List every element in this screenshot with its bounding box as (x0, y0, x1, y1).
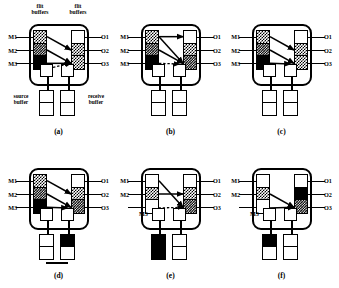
left-flit-cell-1 (146, 175, 158, 188)
source-buffer-cell-1 (263, 91, 276, 103)
panel-a: flitbuffersflitbuffersM1M2M3O1O2O3source… (2, 2, 115, 146)
buffer-base-link (46, 262, 68, 264)
receive-buffer-cell-2 (284, 247, 297, 259)
output-port-label-o3: O3 (324, 204, 338, 211)
stem-source (270, 221, 272, 234)
right-flit-cell-2 (72, 188, 84, 201)
source-buffer-cell-2 (152, 103, 165, 115)
source-buffer-cell-1 (152, 91, 165, 103)
source-buffer-cell-1 (263, 235, 276, 247)
output-port-label-o2: O2 (324, 191, 338, 198)
panel-caption-c: (c) (225, 127, 338, 136)
right-flit-cell-2 (184, 44, 196, 57)
panel-caption-d: (d) (2, 271, 115, 280)
left-flit-cell-1 (146, 31, 158, 44)
source-buffer-label: sourcebuffer (4, 94, 38, 105)
panel-caption-b: (b) (114, 127, 227, 136)
output-port-label-o3: O3 (101, 204, 115, 211)
source-buffer-cell-1 (40, 91, 53, 103)
output-port-label-o3: O3 (213, 204, 227, 211)
receive-buffer-cell-2 (61, 103, 74, 115)
output-port-label-o1: O1 (213, 177, 227, 184)
stem-receive (180, 221, 182, 234)
receive-buffer-cell-1 (61, 235, 74, 247)
right-flit-cell-1 (72, 31, 84, 44)
input-port-label-m3: M3 (229, 60, 240, 67)
output-port-label-o2: O2 (324, 47, 338, 54)
right-flit-cell-1 (184, 175, 196, 188)
source-buffer-cell-1 (152, 235, 165, 247)
receive-buffer (60, 234, 75, 260)
receive-buffer-cell-1 (173, 235, 186, 247)
inner-source-port-box (263, 208, 276, 221)
input-port-label-m1: M1 (118, 177, 129, 184)
input-port-label-m1: M1 (6, 177, 17, 184)
output-port-label-o1: O1 (324, 33, 338, 40)
receive-buffer-cell-2 (173, 247, 186, 259)
right-flit-cell-1 (72, 175, 84, 188)
inner-receive-port-box (284, 64, 297, 77)
output-port-label-o1: O1 (101, 177, 115, 184)
input-port-label-m3: M3 (6, 60, 17, 67)
panel-f: M1M2O1O2O3M3(f) (225, 146, 338, 288)
left-flit-cell-1 (34, 175, 46, 188)
inner-source-port-box (40, 208, 53, 221)
input-port-label-m2: M2 (6, 191, 17, 198)
stem-receive (68, 221, 70, 234)
source-buffer-cell-2 (40, 103, 53, 115)
stem-receive (291, 221, 293, 234)
receive-buffer-cell-2 (284, 103, 297, 115)
panel-caption-e: (e) (114, 271, 227, 280)
inner-receive-port-box (173, 64, 186, 77)
input-port-label-m2: M2 (6, 47, 17, 54)
inner-source-port-box (152, 208, 165, 221)
source-buffer (39, 234, 54, 260)
panel-d: M1M2M3O1O2O3(d) (2, 146, 115, 288)
panel-b: M1M2M3O1O2O3(b) (114, 2, 227, 146)
left-flit-cell-2 (34, 44, 46, 57)
input-port-label-m2: M2 (118, 191, 129, 198)
stem-source (47, 77, 49, 90)
stem-source (159, 77, 161, 90)
flit-buffers-header-right: flitbuffers (62, 4, 94, 15)
input-port-label-m2: M2 (229, 47, 240, 54)
panel-caption-f: (f) (225, 271, 338, 280)
receive-buffer-cell-2 (61, 247, 74, 259)
source-buffer (262, 90, 277, 116)
receive-buffer-cell-1 (284, 235, 297, 247)
source-buffer-cell-2 (40, 247, 53, 259)
right-flit-cell-2 (295, 188, 307, 201)
panel-c: M1M2M3O1O2O3(c) (225, 2, 338, 146)
output-port-label-o1: O1 (213, 33, 227, 40)
input-port-label-m1: M1 (6, 33, 17, 40)
right-flit-cell-1 (295, 175, 307, 188)
source-buffer-cell-2 (263, 103, 276, 115)
stem-receive (291, 77, 293, 90)
right-flit-cell-1 (184, 31, 196, 44)
source-buffer (262, 234, 277, 260)
inner-source-port-box (152, 64, 165, 77)
inner-receive-port-box (284, 208, 297, 221)
input-port-label-m2: M2 (229, 191, 240, 198)
inner-receive-port-box (61, 64, 74, 77)
flit-buffers-header-left: flitbuffers (24, 4, 56, 15)
figure-wormhole-flit-buffers: flitbuffersflitbuffersM1M2M3O1O2O3source… (0, 0, 339, 288)
stem-receive (180, 77, 182, 90)
receive-buffer (60, 90, 75, 116)
source-buffer (151, 90, 166, 116)
receive-buffer (283, 90, 298, 116)
panel-e: M1M2O1O2O3M3(e) (114, 146, 227, 288)
output-port-label-o1: O1 (324, 177, 338, 184)
left-flit-cell-1 (257, 31, 269, 44)
left-flit-cell-2 (257, 44, 269, 57)
stem-receive (68, 77, 70, 90)
output-port-label-o2: O2 (213, 47, 227, 54)
output-port-label-o2: O2 (101, 191, 115, 198)
inner-receive-port-box (61, 208, 74, 221)
input-port-label-m2: M2 (118, 47, 129, 54)
input-port-label-m1: M1 (229, 177, 240, 184)
input-port-label-m1: M1 (118, 33, 129, 40)
panel-caption-a: (a) (2, 127, 115, 136)
receive-buffer-cell-1 (284, 91, 297, 103)
right-flit-cell-1 (295, 31, 307, 44)
